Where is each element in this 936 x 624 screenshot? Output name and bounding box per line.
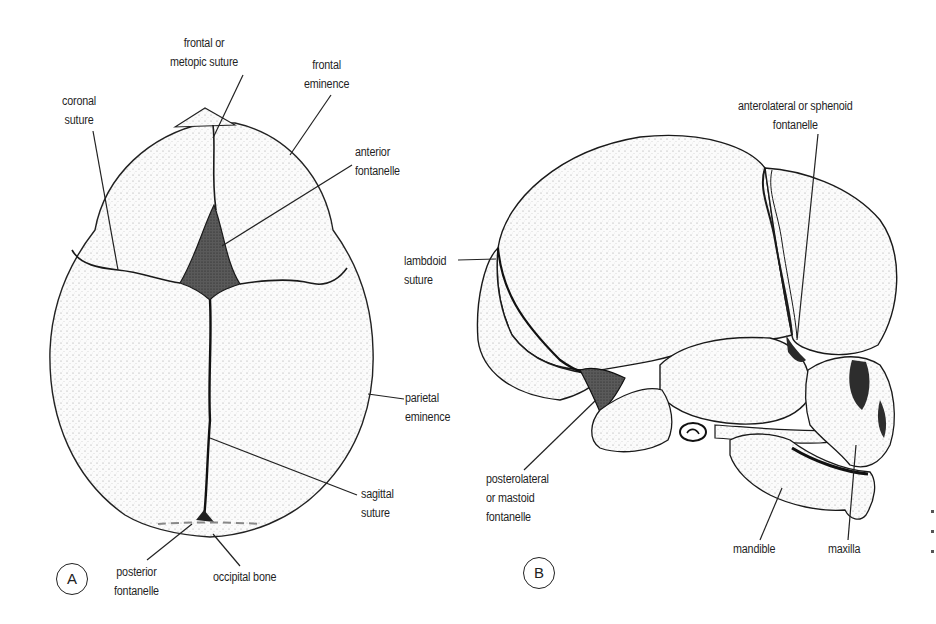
cropped-edge-text [930, 510, 936, 580]
label-frontal-metopic-suture: frontal or metopic suture [170, 34, 238, 72]
label-lambdoid-suture: lambdoid suture [404, 252, 446, 290]
label-sphenoid-fontanelle: anterolateral or sphenoid fontanelle [738, 97, 853, 135]
label-sagittal-suture: sagittal suture [361, 485, 394, 523]
label-posterior-fontanelle: posterior fontanelle [114, 563, 159, 601]
label-anterior-fontanelle: anterior fontanelle [355, 143, 400, 181]
panel-a-skull [50, 75, 404, 566]
skull-figure: frontal or metopic suture frontal eminen… [0, 0, 936, 624]
label-maxilla: maxilla [828, 540, 860, 559]
panel-letter-a: A [56, 563, 88, 595]
label-mandible: mandible [733, 540, 775, 559]
label-coronal-suture: coronal suture [62, 92, 96, 130]
label-occipital-bone: occipital bone [213, 568, 276, 587]
skull-illustration [0, 0, 936, 624]
label-frontal-eminence: frontal eminence [304, 56, 349, 94]
label-parietal-eminence: parietal eminence [405, 389, 450, 427]
panel-letter-b: B [523, 557, 555, 589]
label-mastoid-fontanelle: posterolateral or mastoid fontanelle [486, 470, 549, 527]
